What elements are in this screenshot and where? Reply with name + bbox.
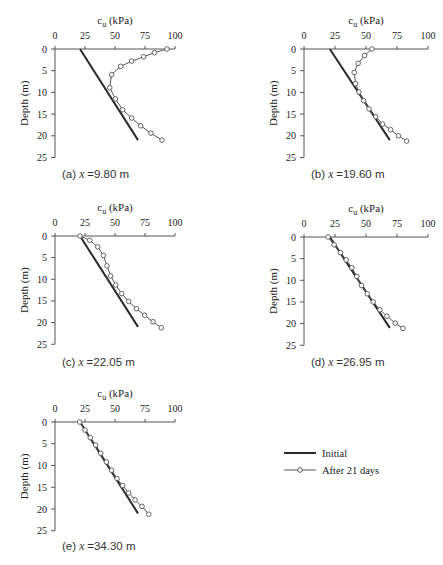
data-point-marker xyxy=(87,238,92,243)
data-point-marker xyxy=(83,428,88,433)
data-point-marker xyxy=(77,420,82,425)
series-after-21-days-line xyxy=(80,236,161,328)
data-point-marker xyxy=(126,299,131,304)
y-tick-label: 10 xyxy=(37,460,47,471)
y-axis-title: Depth (m) xyxy=(18,267,31,313)
data-point-marker xyxy=(109,468,114,473)
x-tick-label: 25 xyxy=(80,217,90,228)
data-point-marker xyxy=(356,61,361,66)
panel-caption: (e) x =34.30 m xyxy=(62,540,136,552)
data-point-marker xyxy=(326,235,331,240)
x-tick-label: 25 xyxy=(330,30,340,41)
x-tick-label: 0 xyxy=(302,218,307,229)
data-point-marker xyxy=(120,483,125,488)
data-point-marker xyxy=(332,242,337,247)
chart-panel-c: 02550751000510152025cu (kPa)Depth (m)(c)… xyxy=(18,201,183,368)
data-point-marker xyxy=(105,264,110,269)
x-axis-title: cu (kPa) xyxy=(97,201,133,216)
data-point-marker xyxy=(107,85,112,90)
y-tick-label: 20 xyxy=(37,317,47,328)
data-point-marker xyxy=(104,460,109,465)
y-tick-label: 25 xyxy=(286,152,296,163)
x-tick-label: 0 xyxy=(53,30,58,41)
data-point-marker xyxy=(396,134,401,139)
y-tick-label: 0 xyxy=(291,44,296,55)
y-tick-label: 15 xyxy=(37,482,47,493)
chart-panel-b: 02550751000510152025cu (kPa)Depth (m)(b)… xyxy=(267,14,436,180)
x-tick-label: 0 xyxy=(53,217,58,228)
x-tick-label: 50 xyxy=(361,30,371,41)
data-point-marker xyxy=(118,64,123,69)
data-point-marker xyxy=(93,443,98,448)
data-point-marker xyxy=(367,107,372,112)
panel-caption: (c) x =22.05 m xyxy=(62,356,135,368)
series-initial-line xyxy=(80,236,138,327)
data-point-marker xyxy=(119,291,124,296)
data-point-marker xyxy=(120,107,125,112)
figure: 02550751000510152025cu (kPa)Depth (m)(a)… xyxy=(0,0,443,565)
data-point-marker xyxy=(129,59,134,64)
y-tick-label: 5 xyxy=(291,65,296,76)
x-axis-title: cu (kPa) xyxy=(97,14,133,29)
y-tick-label: 25 xyxy=(286,340,296,351)
x-tick-label: 25 xyxy=(80,403,90,414)
x-axis-title: cu (kPa) xyxy=(97,387,133,402)
data-point-marker xyxy=(160,138,165,143)
data-point-marker xyxy=(152,50,157,55)
data-point-marker xyxy=(362,53,367,58)
data-point-marker xyxy=(113,283,118,288)
x-tick-label: 100 xyxy=(421,218,436,229)
data-point-marker xyxy=(350,265,355,270)
x-tick-label: 0 xyxy=(53,403,58,414)
data-point-marker xyxy=(78,234,83,239)
x-tick-label: 75 xyxy=(140,217,150,228)
y-tick-label: 20 xyxy=(286,130,296,141)
chart-panel-a: 02550751000510152025cu (kPa)Depth (m)(a)… xyxy=(18,14,183,180)
x-axis-title: cu (kPa) xyxy=(348,202,384,217)
x-tick-label: 100 xyxy=(168,30,183,41)
y-tick-label: 5 xyxy=(42,438,47,449)
data-point-marker xyxy=(109,72,114,77)
data-point-marker xyxy=(344,258,349,263)
data-point-marker xyxy=(149,131,154,136)
data-point-marker xyxy=(138,124,143,129)
data-point-marker xyxy=(108,274,113,279)
y-tick-label: 15 xyxy=(37,109,47,120)
data-point-marker xyxy=(365,291,370,296)
y-tick-label: 10 xyxy=(286,87,296,98)
y-tick-label: 15 xyxy=(286,296,296,307)
data-point-marker xyxy=(115,476,120,481)
y-axis-title: Depth (m) xyxy=(267,80,280,126)
data-point-marker xyxy=(338,250,343,255)
legend-initial-label: Initial xyxy=(322,448,347,459)
data-point-marker xyxy=(361,98,366,103)
y-axis-title: Depth (m) xyxy=(267,268,280,314)
y-tick-label: 20 xyxy=(37,504,47,515)
data-point-marker xyxy=(393,321,398,326)
y-tick-label: 0 xyxy=(42,44,47,55)
data-point-marker xyxy=(140,504,145,509)
y-tick-label: 10 xyxy=(37,274,47,285)
x-tick-label: 100 xyxy=(421,30,436,41)
x-tick-label: 75 xyxy=(140,30,150,41)
y-tick-label: 10 xyxy=(37,87,47,98)
y-tick-label: 10 xyxy=(286,275,296,286)
chart-panel-e: 02550751000510152025cu (kPa)Depth (m)(e)… xyxy=(18,387,183,552)
data-point-marker xyxy=(98,451,103,456)
data-point-marker xyxy=(378,307,383,312)
x-tick-label: 25 xyxy=(330,218,340,229)
y-tick-label: 5 xyxy=(291,253,296,264)
data-point-marker xyxy=(380,122,385,127)
data-point-marker xyxy=(373,114,378,119)
x-tick-label: 75 xyxy=(392,30,402,41)
x-tick-label: 50 xyxy=(110,217,120,228)
data-point-marker xyxy=(359,283,364,288)
x-tick-label: 75 xyxy=(140,403,150,414)
y-tick-label: 0 xyxy=(291,232,296,243)
y-tick-label: 5 xyxy=(42,65,47,76)
y-tick-label: 25 xyxy=(37,339,47,350)
x-tick-label: 50 xyxy=(110,30,120,41)
x-tick-label: 75 xyxy=(392,218,402,229)
x-tick-label: 50 xyxy=(110,403,120,414)
panel-caption: (a) x =9.80 m xyxy=(62,168,129,180)
